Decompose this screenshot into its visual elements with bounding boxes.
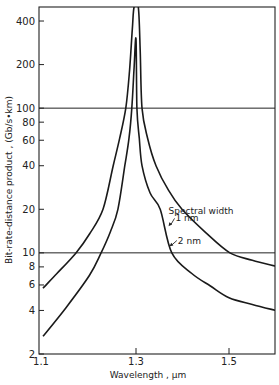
y-axis-label: Bit-rate-distance product , (Gb/s•km) [4,96,14,264]
y-axis-ticks: 24681020406080100200400 [16,16,44,360]
y-tick-label: 80 [22,117,35,128]
y-tick-label: 400 [16,16,35,27]
series-line-2nm [43,38,276,336]
reference-lines [39,108,275,253]
annotation-label: 1 nm [176,213,199,223]
y-tick-label: 4 [29,305,35,316]
x-tick-label: 1.1 [33,356,49,367]
y-tick-label: 10 [22,247,35,258]
chart: 24681020406080100200400 1.11.31.5 Spectr… [0,0,279,385]
annotation-label: 2 nm [178,236,201,246]
x-axis-label: Wavelength , µm [110,370,186,380]
y-tick-label: 20 [22,204,35,215]
y-tick-label: 8 [29,261,35,272]
y-tick-label: 60 [22,135,35,146]
x-tick-label: 1.3 [128,356,144,367]
y-tick-label: 40 [22,160,35,171]
y-tick-label: 100 [16,103,35,114]
annotations: Spectral width1 nm2 nm [169,206,234,246]
x-tick-label: 1.5 [221,356,237,367]
series-layer [43,3,276,337]
y-tick-label: 6 [29,279,35,290]
x-axis-ticks: 1.11.31.5 [33,348,237,367]
y-tick-label: 200 [16,59,35,70]
series-line-1nm [43,3,276,288]
